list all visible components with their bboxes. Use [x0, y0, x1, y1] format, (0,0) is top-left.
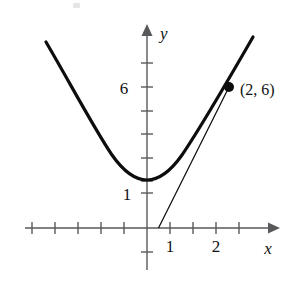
tangent-point-dot: [224, 82, 234, 92]
tangent-point-label: (2, 6): [240, 81, 275, 99]
x-axis-label: x: [263, 239, 272, 258]
graph-figure: 6 1 1 2 x y (2, 6): [0, 0, 294, 284]
y-axis: [141, 24, 153, 270]
x-tick-label-2: 2: [212, 237, 221, 256]
y-tick-label-1: 1: [123, 185, 132, 204]
x-axis: [25, 222, 280, 234]
parabola-tangent-plot: 6 1 1 2 x y (2, 6): [0, 0, 294, 284]
x-tick-label-1: 1: [166, 237, 175, 256]
y-axis-arrow-icon: [142, 24, 153, 36]
tangent-line: [159, 87, 230, 228]
x-axis-arrow-icon: [268, 223, 280, 234]
y-tick-label-6: 6: [120, 79, 129, 98]
y-axis-label: y: [158, 24, 168, 43]
